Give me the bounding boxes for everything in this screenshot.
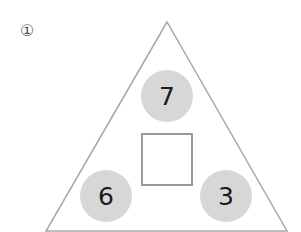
circle-bottom-right: 3 [200,170,252,222]
circle-top: 7 [141,70,193,122]
bottom-left-number: 6 [98,182,114,211]
triangle-puzzle: 7 6 3 [0,0,301,232]
bottom-right-number: 3 [218,182,234,211]
top-number: 7 [159,82,175,111]
answer-box[interactable] [142,134,192,185]
circle-bottom-left: 6 [80,170,132,222]
